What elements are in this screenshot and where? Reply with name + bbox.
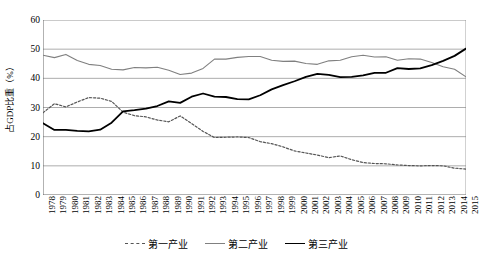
x-tick-label: 1996 xyxy=(253,196,263,232)
x-tick-label: 1994 xyxy=(230,196,240,232)
y-tick-label: 0 xyxy=(18,190,40,200)
legend-item-3[interactable]: 第三产业 xyxy=(285,236,348,251)
x-tick-label: 2008 xyxy=(390,196,400,232)
legend-swatch-icon xyxy=(125,240,145,247)
x-tick-label: 1979 xyxy=(58,196,68,232)
x-tick-label: 1999 xyxy=(287,196,297,232)
legend-swatch-icon xyxy=(205,240,225,247)
y-tick-label: 50 xyxy=(18,44,40,54)
x-tick-label: 1983 xyxy=(104,196,114,232)
x-tick-label: 1986 xyxy=(138,196,148,232)
x-tick-label: 2010 xyxy=(413,196,423,232)
plot-area xyxy=(43,20,466,195)
series-line-2 xyxy=(43,54,466,76)
x-tick-label: 2003 xyxy=(333,196,343,232)
x-tick-label: 2012 xyxy=(436,196,446,232)
x-tick-label: 1990 xyxy=(184,196,194,232)
x-tick-label: 1992 xyxy=(207,196,217,232)
chart-legend: 第一产业第二产业第三产业 xyxy=(0,234,472,252)
series-line-1 xyxy=(43,98,466,169)
legend-swatch-icon xyxy=(285,240,305,247)
legend-label: 第三产业 xyxy=(308,236,348,251)
legend-item-2[interactable]: 第二产业 xyxy=(205,236,268,251)
x-tick-label: 2007 xyxy=(379,196,389,232)
x-tick-label: 2015 xyxy=(470,196,480,232)
x-tick-label: 1984 xyxy=(116,196,126,232)
y-tick-label: 40 xyxy=(18,73,40,83)
x-tick-label: 1978 xyxy=(47,196,57,232)
legend-item-1[interactable]: 第一产业 xyxy=(125,236,188,251)
x-tick-label: 2002 xyxy=(321,196,331,232)
x-tick-label: 2013 xyxy=(447,196,457,232)
x-tick-label: 1995 xyxy=(241,196,251,232)
plot-svg xyxy=(43,20,466,195)
y-tick-label: 30 xyxy=(18,103,40,113)
x-tick-label: 2014 xyxy=(459,196,469,232)
x-tick-label: 1993 xyxy=(218,196,228,232)
x-tick-label: 1987 xyxy=(150,196,160,232)
x-tick-label: 2009 xyxy=(401,196,411,232)
x-tick-label: 2006 xyxy=(367,196,377,232)
y-axis-tick-labels: 0102030405060 xyxy=(14,0,40,255)
x-tick-label: 2000 xyxy=(299,196,309,232)
x-tick-label: 2001 xyxy=(310,196,320,232)
x-tick-label: 1997 xyxy=(264,196,274,232)
x-tick-label: 2005 xyxy=(356,196,366,232)
legend-label: 第一产业 xyxy=(148,236,188,251)
y-tick-label: 20 xyxy=(18,132,40,142)
x-tick-label: 1998 xyxy=(276,196,286,232)
x-tick-label: 2004 xyxy=(344,196,354,232)
x-tick-label: 1982 xyxy=(93,196,103,232)
y-tick-label: 10 xyxy=(18,161,40,171)
x-tick-label: 1991 xyxy=(196,196,206,232)
x-tick-label: 1988 xyxy=(161,196,171,232)
series-line-3 xyxy=(43,49,466,132)
legend-label: 第二产业 xyxy=(228,236,268,251)
x-tick-label: 1985 xyxy=(127,196,137,232)
x-tick-label: 1989 xyxy=(173,196,183,232)
y-tick-label: 60 xyxy=(18,15,40,25)
x-tick-label: 1981 xyxy=(81,196,91,232)
x-tick-label: 1980 xyxy=(70,196,80,232)
x-axis-tick-labels: 1978197919801981198219831984198519861987… xyxy=(43,196,466,232)
x-tick-label: 2011 xyxy=(424,196,434,232)
